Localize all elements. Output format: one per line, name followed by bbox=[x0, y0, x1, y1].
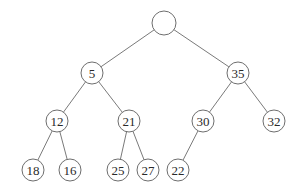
tree-edge-n21-n27 bbox=[133, 131, 144, 159]
node-label: 12 bbox=[51, 114, 64, 129]
node-label: 27 bbox=[142, 163, 156, 178]
tree-node-root bbox=[152, 11, 176, 35]
tree-edge-n35-n32 bbox=[245, 82, 268, 112]
node-label: 32 bbox=[268, 114, 281, 129]
node-circle bbox=[152, 11, 176, 35]
tree-node-n27: 27 bbox=[137, 159, 159, 181]
node-label: 18 bbox=[27, 163, 40, 178]
tree-node-n21: 21 bbox=[118, 110, 140, 132]
tree-node-n18: 18 bbox=[22, 159, 44, 181]
tree-node-n35: 35 bbox=[227, 62, 249, 84]
node-label: 35 bbox=[232, 66, 245, 81]
tree-node-n22: 22 bbox=[167, 159, 189, 181]
node-label: 30 bbox=[197, 114, 210, 129]
node-label: 5 bbox=[89, 66, 96, 81]
tree-node-n32: 32 bbox=[263, 110, 285, 132]
tree-edge-n30-n22 bbox=[183, 131, 198, 160]
tree-edge-n35-n30 bbox=[209, 82, 231, 112]
tree-edge-n12-n18 bbox=[38, 131, 52, 160]
node-label: 25 bbox=[112, 163, 125, 178]
node-label: 22 bbox=[172, 163, 185, 178]
tree-node-n16: 16 bbox=[59, 159, 81, 181]
tree-edge-n5-n21 bbox=[99, 82, 123, 113]
binary-tree-diagram: 535122130321816252722 bbox=[0, 0, 304, 193]
tree-node-n30: 30 bbox=[192, 110, 214, 132]
node-label: 16 bbox=[64, 163, 78, 178]
tree-edge-root-n5 bbox=[101, 30, 154, 67]
tree-edge-n5-n12 bbox=[63, 82, 85, 112]
tree-node-n25: 25 bbox=[107, 159, 129, 181]
tree-edges bbox=[38, 30, 268, 160]
node-label: 21 bbox=[123, 114, 136, 129]
tree-node-n5: 5 bbox=[81, 62, 103, 84]
tree-edge-n21-n25 bbox=[120, 132, 126, 160]
tree-edge-n12-n16 bbox=[60, 132, 67, 160]
tree-nodes: 535122130321816252722 bbox=[22, 11, 285, 181]
tree-edge-root-n35 bbox=[174, 30, 229, 67]
tree-node-n12: 12 bbox=[46, 110, 68, 132]
